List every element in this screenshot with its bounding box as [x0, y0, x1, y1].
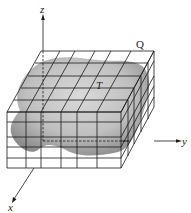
- z-axis-label: z: [39, 3, 45, 15]
- y-axis-label: y: [181, 135, 187, 147]
- box-partition-diagram: z y x Q T: [0, 0, 191, 213]
- box-label-q: Q: [136, 38, 144, 50]
- x-axis: [14, 168, 34, 199]
- x-axis-label: x: [7, 201, 13, 213]
- solid-label-t: T: [96, 79, 103, 91]
